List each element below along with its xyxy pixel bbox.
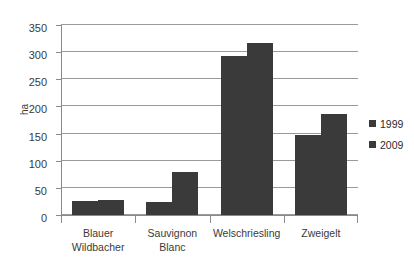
y-tick-label-300: 300 <box>29 49 47 55</box>
bar <box>247 43 273 215</box>
bar <box>146 202 172 215</box>
y-tick-label-250: 250 <box>29 76 47 82</box>
bars-layer <box>61 25 358 215</box>
y-axis-tick-labels: 050100150200250300350 <box>0 25 55 215</box>
y-tick-label-350: 350 <box>29 22 47 28</box>
legend-swatch-icon <box>369 141 376 148</box>
y-tick-label-200: 200 <box>29 103 47 109</box>
bar-group <box>295 25 347 215</box>
legend-label: 1999 <box>380 118 403 130</box>
bar <box>98 200 124 215</box>
category-label-line: Sauvignon <box>135 226 209 240</box>
bar <box>295 135 321 215</box>
bar-group <box>72 25 124 215</box>
legend-swatch-icon <box>369 120 376 127</box>
y-tick-label-0: 0 <box>41 212 47 218</box>
y-tick-label-50: 50 <box>35 185 47 191</box>
bar-chart-figure: ha 050100150200250300350 BlauerWildbache… <box>0 0 414 265</box>
bar-group <box>221 25 273 215</box>
category-tick <box>135 216 136 223</box>
category-label-line: Welschriesling <box>210 226 284 240</box>
bar <box>172 172 198 215</box>
legend-item[interactable]: 2009 <box>369 134 414 155</box>
category-axis-labels: BlauerWildbacherSauvignonBlancWelschries… <box>61 226 358 262</box>
category-label-line: Zweigelt <box>284 226 358 240</box>
category-tick <box>61 216 62 223</box>
legend: 19992009 <box>369 113 414 155</box>
y-tick-label-150: 150 <box>29 131 47 137</box>
category-label: BlauerWildbacher <box>61 226 135 254</box>
category-label: Zweigelt <box>284 226 358 240</box>
category-label-line: Blauer <box>61 226 135 240</box>
category-label: SauvignonBlanc <box>135 226 209 254</box>
y-tick-label-100: 100 <box>29 158 47 164</box>
legend-item[interactable]: 1999 <box>369 113 414 134</box>
category-label: Welschriesling <box>210 226 284 240</box>
bar <box>72 201 98 215</box>
category-tick <box>210 216 211 223</box>
bar <box>221 56 247 215</box>
legend-label: 2009 <box>380 139 403 151</box>
bar-group <box>146 25 198 215</box>
category-tick <box>357 216 358 223</box>
category-label-line: Blanc <box>135 240 209 254</box>
bar <box>321 114 347 215</box>
category-label-line: Wildbacher <box>61 240 135 254</box>
category-tick-marks <box>61 216 358 223</box>
category-tick <box>284 216 285 223</box>
